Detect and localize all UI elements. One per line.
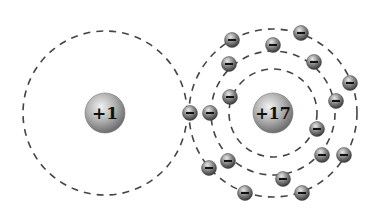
minus-icon (241, 192, 249, 194)
electron (266, 38, 281, 53)
minus-icon (340, 154, 348, 156)
electron (343, 76, 358, 91)
electron (310, 122, 325, 137)
electron (222, 57, 237, 72)
minus-icon (297, 32, 305, 34)
electron (238, 186, 253, 201)
minus-icon (206, 112, 214, 114)
electron (183, 106, 198, 121)
minus-icon (205, 167, 213, 169)
electron (225, 33, 240, 48)
electron (337, 148, 352, 163)
minus-icon (318, 154, 326, 156)
minus-icon (298, 192, 306, 194)
electron (294, 26, 309, 41)
minus-icon (225, 63, 233, 65)
electron (276, 172, 291, 187)
electron (307, 55, 322, 70)
minus-icon (186, 112, 194, 114)
minus-icon (224, 160, 232, 162)
electron (295, 186, 310, 201)
electron (203, 106, 218, 121)
hydrogen-charge-label: +1 (92, 103, 118, 123)
minus-icon (269, 44, 277, 46)
chlorine-charge-label: +17 (255, 104, 291, 123)
electron (202, 161, 217, 176)
electron (221, 154, 236, 169)
hydrogen-nucleus: +1 (85, 93, 125, 133)
minus-icon (226, 96, 234, 98)
minus-icon (332, 100, 340, 102)
electron (329, 94, 344, 109)
minus-icon (310, 61, 318, 63)
electron (223, 90, 238, 105)
chlorine-nucleus: +17 (253, 93, 293, 133)
minus-icon (346, 82, 354, 84)
bohr-diagram: +1+17 (0, 0, 381, 213)
minus-icon (228, 39, 236, 41)
electron (315, 148, 330, 163)
minus-icon (313, 128, 321, 130)
minus-icon (279, 178, 287, 180)
